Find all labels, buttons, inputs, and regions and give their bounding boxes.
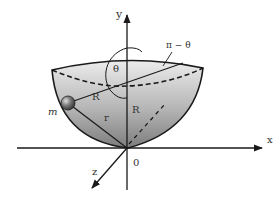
z-axis-label: z: [92, 166, 97, 177]
theta-label: θ: [113, 63, 119, 74]
mass-ball: [61, 96, 75, 110]
pi-minus-theta-arc: [127, 48, 142, 52]
r-vector-label: r: [104, 112, 109, 123]
origin-label: 0: [133, 157, 139, 168]
mass-label: m: [48, 106, 57, 117]
radius-vertical-label: R: [132, 104, 140, 115]
hemisphere-diagram: y x z 0 m R R r θ π − θ: [0, 0, 279, 201]
y-axis-label: y: [115, 8, 123, 21]
radius-slant-label: R: [92, 91, 100, 102]
x-axis-label: x: [267, 134, 273, 145]
pi-minus-theta-label: π − θ: [166, 40, 191, 50]
